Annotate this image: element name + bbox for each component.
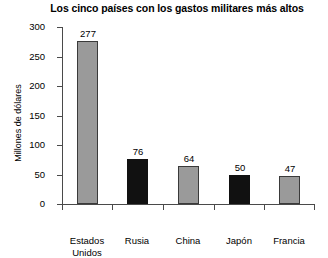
bar-value-japon: 50 <box>213 163 267 173</box>
x-category-label: Francia <box>258 235 320 247</box>
y-tick-label-2: 100 <box>5 140 45 150</box>
y-tick-label-0: 0 <box>5 199 45 209</box>
bar-rusia <box>127 159 148 204</box>
x-separator-0 <box>62 205 63 210</box>
x-category-francia: Francia <box>258 235 320 247</box>
y-tick-2 <box>57 145 62 146</box>
bar-francia <box>279 176 300 204</box>
bar-estados-unidos <box>77 41 98 204</box>
y-tick-1 <box>57 175 62 176</box>
x-separator-4 <box>264 205 265 210</box>
y-tick-label-5: 250 <box>5 52 45 62</box>
x-category-label-line-2: Unidos <box>56 247 118 258</box>
y-axis-line <box>62 27 63 205</box>
y-tick-label-4: 200 <box>5 81 45 91</box>
x-separator-2 <box>163 205 164 210</box>
plot-area: 0 50 100 150 200 250 300 277 76 64 50 47 <box>62 27 315 205</box>
chart-title: Los cinco países con los gastos militare… <box>32 2 322 14</box>
x-axis-line <box>62 204 315 205</box>
y-tick-5 <box>57 57 62 58</box>
bar-china <box>178 166 199 204</box>
bar-value-estados-unidos: 277 <box>61 29 115 39</box>
y-tick-label-3: 150 <box>5 111 45 121</box>
y-tick-label-6: 300 <box>5 22 45 32</box>
bar-japon <box>229 175 250 205</box>
y-tick-3 <box>57 116 62 117</box>
y-tick-4 <box>57 86 62 87</box>
x-separator-3 <box>214 205 215 210</box>
y-tick-label-1: 50 <box>5 170 45 180</box>
bar-value-china: 64 <box>162 154 216 164</box>
x-separator-1 <box>112 205 113 210</box>
bar-value-rusia: 76 <box>111 147 165 157</box>
x-separator-5 <box>314 205 315 210</box>
bar-value-francia: 47 <box>263 164 317 174</box>
